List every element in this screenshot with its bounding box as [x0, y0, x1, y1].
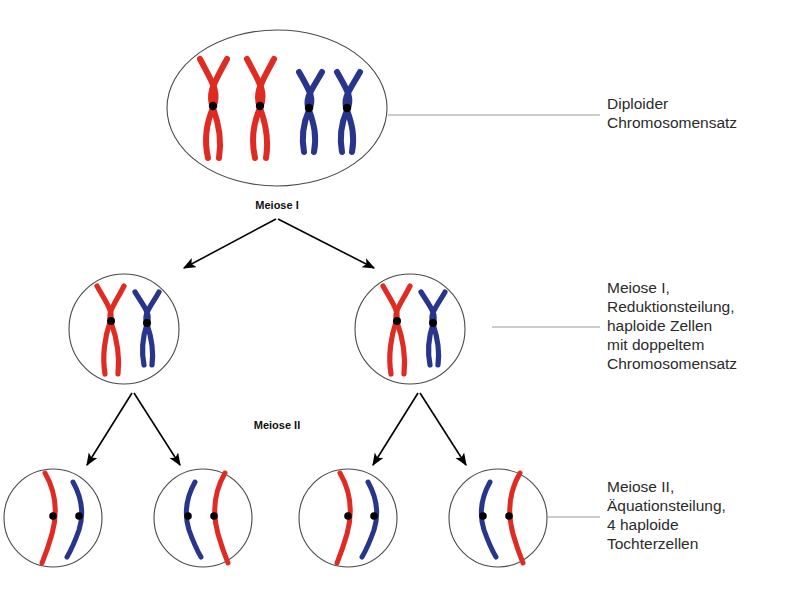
centromere	[344, 512, 352, 520]
cell-membrane	[167, 30, 387, 186]
cell-tochterzelle-1	[4, 469, 102, 567]
side-label-diploid: Diploider Chromosomensatz	[607, 94, 737, 132]
side-label-meiose-i: Meiose I, Reduktionsteilung, haploide Ze…	[607, 278, 737, 373]
arrow-shaft	[373, 393, 418, 465]
cell-membrane	[449, 469, 547, 567]
meiosis-diagram: Meiose I	[0, 0, 786, 612]
side-label-meiose-ii: Meiose II, Äquationsteilung, 4 haploide …	[607, 477, 726, 553]
arrow-meiose1-right	[278, 219, 374, 268]
arrow-shaft	[278, 219, 374, 268]
arrow-shaft	[184, 219, 276, 268]
arrow-meiose2-a	[87, 393, 132, 465]
cell-parent-cell	[167, 30, 387, 186]
cell-meiose1-cell-right	[355, 274, 465, 384]
cell-tochterzelle-3	[299, 469, 397, 567]
centromere	[370, 512, 378, 520]
cell-tochterzelle-2	[154, 469, 252, 567]
centromere	[209, 102, 217, 110]
centromere	[184, 512, 192, 520]
centromere	[505, 512, 513, 520]
centromere	[256, 102, 264, 110]
arrow-meiose1-left	[184, 219, 276, 268]
centromere	[343, 104, 351, 112]
cell-meiose1-cell-left	[69, 274, 179, 384]
centromere	[107, 317, 115, 325]
arrow-shaft	[420, 393, 466, 465]
centromere	[479, 512, 487, 520]
centromere	[429, 319, 437, 327]
arrow-meiose2-d	[420, 393, 466, 465]
centromere	[210, 512, 218, 520]
centromere	[75, 512, 83, 520]
arrow-meiose2-c	[373, 393, 418, 465]
centromere	[143, 319, 151, 327]
centromere	[305, 104, 313, 112]
arrow-shaft	[134, 393, 180, 465]
centromere	[393, 317, 401, 325]
centromere	[49, 512, 57, 520]
cell-membrane	[154, 469, 252, 567]
stage-label-meiose-i: Meiose I	[255, 199, 298, 211]
arrow-meiose2-b	[134, 393, 180, 465]
arrow-shaft	[87, 393, 132, 465]
stage-label-meiose-ii: Meiose II	[254, 419, 300, 431]
cell-tochterzelle-4	[449, 469, 547, 567]
